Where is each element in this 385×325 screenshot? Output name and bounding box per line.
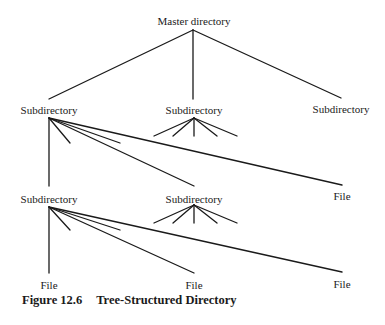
node-subdirectory-lower-left: Subdirectory (21, 193, 78, 205)
node-file-bottom-right: File (333, 278, 350, 290)
tree-edges (0, 0, 385, 325)
node-master-directory: Master directory (158, 15, 231, 27)
node-file-bottom-left: File (40, 279, 57, 291)
figure-number: Figure 12.6 (22, 293, 82, 307)
node-subdirectory-lower-middle: Subdirectory (166, 193, 223, 205)
tree-directory-diagram: Master directory Subdirectory Subdirecto… (0, 0, 385, 325)
node-subdirectory-right: Subdirectory (313, 103, 370, 115)
node-file-right: File (333, 190, 350, 202)
figure-caption: Figure 12.6Tree-Structured Directory (22, 293, 237, 308)
node-subdirectory-left: Subdirectory (21, 104, 78, 116)
node-subdirectory-middle: Subdirectory (166, 104, 223, 116)
node-file-bottom-middle: File (185, 279, 202, 291)
figure-title: Tree-Structured Directory (96, 293, 236, 307)
